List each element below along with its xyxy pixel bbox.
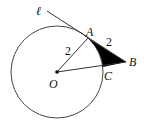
segment-OB — [57, 62, 126, 72]
line-label-l: ℓ — [36, 4, 41, 18]
point-label-C: C — [104, 69, 113, 83]
center-point — [55, 70, 59, 74]
point-label-A: A — [85, 25, 94, 39]
segment-label-AB: 2 — [106, 35, 112, 49]
point-label-O: O — [49, 77, 58, 91]
point-label-B: B — [129, 55, 137, 69]
geometry-diagram: ℓ A B C O 2 2 — [0, 0, 144, 127]
segment-OA — [57, 38, 88, 72]
segment-label-OA: 2 — [65, 44, 71, 58]
